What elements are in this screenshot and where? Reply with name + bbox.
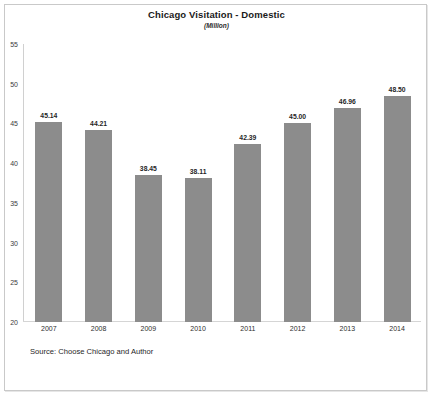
x-axis-tick-label: 2009 <box>141 325 157 332</box>
source-note: Source: Choose Chicago and Author <box>30 347 153 356</box>
bar-value-label: 45.00 <box>289 113 306 120</box>
bar-slot: 45.14 <box>35 44 62 322</box>
x-axis-tick-label: 2014 <box>389 325 405 332</box>
y-axis-tick-label: 55 <box>10 41 18 48</box>
chart-subtitle: (Million) <box>0 21 433 31</box>
bar[interactable] <box>334 108 361 322</box>
bar[interactable] <box>384 96 411 322</box>
x-axis-labels: 20072008200920102011201220132014 <box>23 325 421 339</box>
bar[interactable] <box>284 123 311 322</box>
bar[interactable] <box>35 122 62 322</box>
bars-layer: 45.1444.2138.4538.1142.3945.0046.9648.50 <box>23 44 421 322</box>
bar-value-label: 48.50 <box>389 86 406 93</box>
bar-slot: 38.11 <box>185 44 212 322</box>
y-axis-tick-label: 50 <box>10 80 18 87</box>
page-title: Chicago Visitation - Domestic <box>0 9 433 21</box>
x-axis-tick-label: 2010 <box>190 325 206 332</box>
x-axis-tick-label: 2012 <box>290 325 306 332</box>
bar-value-label: 44.21 <box>90 120 107 127</box>
chart-page: Chicago Visitation - Domestic (Million) … <box>0 0 433 408</box>
x-axis-tick-label: 2008 <box>91 325 107 332</box>
y-axis-tick-label: 20 <box>10 319 18 326</box>
y-axis-tick-label: 40 <box>10 160 18 167</box>
y-axis-tick-label: 30 <box>10 239 18 246</box>
bar-value-label: 38.11 <box>190 168 207 175</box>
bar-value-label: 45.14 <box>40 112 57 119</box>
bar-value-label: 46.96 <box>339 98 356 105</box>
bar[interactable] <box>85 130 112 322</box>
chart-title-block: Chicago Visitation - Domestic (Million) <box>0 9 433 31</box>
bar-value-label: 38.45 <box>140 165 157 172</box>
bar-value-label: 42.39 <box>239 134 256 141</box>
bar-slot: 44.21 <box>85 44 112 322</box>
bar-slot: 42.39 <box>234 44 261 322</box>
bar[interactable] <box>234 144 261 322</box>
y-axis-tick-label: 25 <box>10 279 18 286</box>
x-axis-tick-label: 2011 <box>240 325 255 332</box>
bar-slot: 45.00 <box>284 44 311 322</box>
y-axis-labels: 5550454035302520 <box>0 44 23 322</box>
bar[interactable] <box>135 175 162 322</box>
y-axis-tick-label: 35 <box>10 199 18 206</box>
x-axis-tick-label: 2013 <box>340 325 356 332</box>
bar-slot: 48.50 <box>384 44 411 322</box>
bar[interactable] <box>185 178 212 322</box>
bar-slot: 46.96 <box>334 44 361 322</box>
x-axis-tick-label: 2007 <box>41 325 57 332</box>
bar-slot: 38.45 <box>135 44 162 322</box>
y-axis-tick-label: 45 <box>10 120 18 127</box>
